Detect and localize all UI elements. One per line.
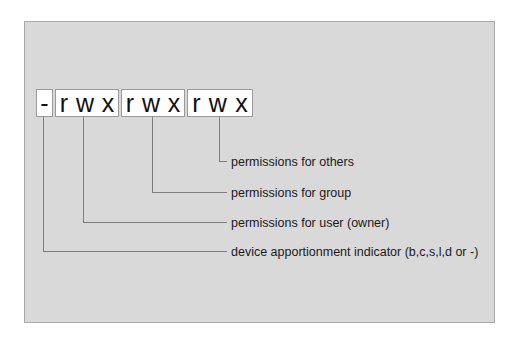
user-label: permissions for user (owner) — [231, 216, 389, 230]
others-connector-vertical — [219, 117, 220, 162]
others-connector-horizontal — [219, 161, 227, 162]
type-indicator-box: - — [36, 89, 53, 117]
user-write-char: w — [76, 91, 94, 116]
others-read-char: r — [192, 91, 200, 116]
group-execute-char: x — [168, 91, 181, 116]
others-execute-char: x — [235, 91, 248, 116]
others-label: permissions for others — [231, 155, 354, 169]
group-label: permissions for group — [231, 186, 351, 200]
device-connector-vertical — [43, 117, 44, 252]
user-connector-vertical — [83, 117, 84, 223]
others-permissions-box: r w x — [187, 89, 253, 117]
group-write-char: w — [142, 91, 160, 116]
user-execute-char: x — [102, 91, 115, 116]
user-permissions-box: r w x — [55, 89, 119, 117]
others-write-char: w — [209, 91, 227, 116]
user-connector-horizontal — [83, 222, 227, 223]
group-permissions-box: r w x — [121, 89, 185, 117]
group-connector-vertical — [152, 117, 153, 193]
device-connector-horizontal — [43, 251, 227, 252]
type-indicator-char: - — [40, 91, 48, 116]
device-label: device apportionment indicator (b,c,s,l,… — [231, 245, 478, 259]
diagram-panel — [24, 21, 495, 323]
group-connector-horizontal — [152, 192, 227, 193]
group-read-char: r — [126, 91, 134, 116]
user-read-char: r — [60, 91, 68, 116]
